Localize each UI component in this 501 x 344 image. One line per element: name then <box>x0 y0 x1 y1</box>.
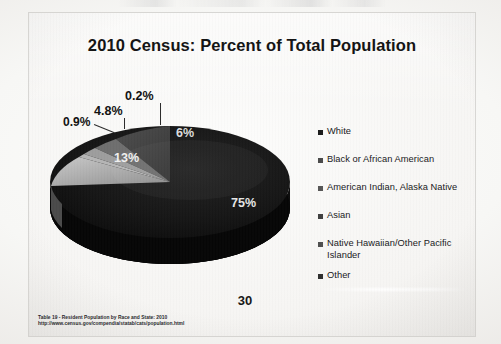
legend-swatch-icon <box>318 186 323 191</box>
source-citation: Table 19 - Resident Population by Race a… <box>38 315 268 328</box>
pie-label-0-2-percent: 0.2% <box>125 89 154 103</box>
legend-label: American Indian, Alaska Native <box>327 182 457 194</box>
pie-label-75-percent: 75% <box>231 196 256 210</box>
pie-label-6-percent: 6% <box>176 126 194 140</box>
citation-url-line: http://www.census.gov/compendia/statab/c… <box>38 321 268 327</box>
legend-item-black-or-african-american[interactable]: Black or African American <box>318 154 470 166</box>
legend-item-asian[interactable]: Asian <box>318 210 470 222</box>
legend-label: Native Hawaiian/Other Pacific Islander <box>327 238 470 261</box>
legend-swatch-icon <box>318 130 323 135</box>
legend-swatch-icon <box>318 242 323 247</box>
pie-label-0-9-percent: 0.9% <box>63 115 90 129</box>
legend-label: Black or African American <box>327 154 434 166</box>
legend-item-other[interactable]: Other <box>318 270 470 282</box>
photo-glare-streak <box>316 288 470 291</box>
pie-sheen <box>112 140 268 200</box>
leader-line-0-2 <box>160 103 161 125</box>
legend-item-white[interactable]: White <box>318 126 470 138</box>
legend-swatch-icon <box>318 274 323 279</box>
chart-legend: White Black or African American American… <box>318 126 470 282</box>
legend-label: White <box>327 126 351 138</box>
photographed-page: 2010 Census: Percent of Total Population <box>0 0 501 344</box>
legend-swatch-icon <box>318 214 323 219</box>
legend-swatch-icon <box>318 158 323 163</box>
leader-line-4-8 <box>124 118 125 129</box>
cut-off-text-fragment <box>118 0 386 7</box>
legend-label: Other <box>327 270 351 282</box>
legend-item-native-hawaiian-other-pacific-islander[interactable]: Native Hawaiian/Other Pacific Islander <box>318 238 470 261</box>
page-number: 30 <box>215 293 275 308</box>
legend-item-american-indian-alaska-native[interactable]: American Indian, Alaska Native <box>318 182 470 194</box>
page-title: 2010 Census: Percent of Total Population <box>29 36 475 55</box>
pie-label-13-percent: 13% <box>114 151 139 165</box>
pie-label-4-8-percent: 4.8% <box>94 104 123 118</box>
legend-label: Asian <box>327 210 351 222</box>
